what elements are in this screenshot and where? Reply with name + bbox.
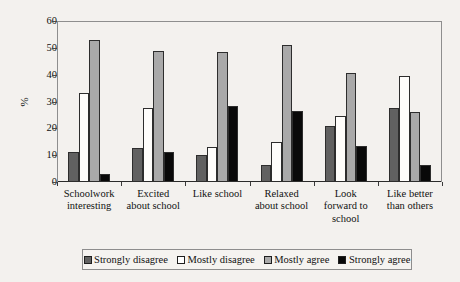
chart-legend: Strongly disagreeMostly disagreeMostly a… bbox=[82, 249, 412, 270]
bar bbox=[282, 45, 293, 182]
y-axis-ticks: 0102030405060 bbox=[0, 0, 57, 282]
legend-item[interactable]: Strongly disagree bbox=[84, 254, 168, 265]
bar bbox=[153, 51, 164, 182]
bar bbox=[68, 152, 79, 182]
y-tick-label: 50 bbox=[11, 43, 57, 53]
y-tick-label: 20 bbox=[11, 123, 57, 133]
y-tick-label: 40 bbox=[11, 70, 57, 80]
bar-group bbox=[121, 21, 185, 182]
y-tick-label: 30 bbox=[11, 97, 57, 107]
x-tick-mark bbox=[185, 182, 186, 186]
bar bbox=[356, 146, 367, 182]
bar bbox=[196, 155, 207, 182]
bar bbox=[346, 73, 357, 182]
legend-swatch-icon bbox=[177, 256, 185, 264]
legend-label: Mostly disagree bbox=[187, 254, 254, 265]
legend-swatch-icon bbox=[84, 256, 92, 264]
bar bbox=[143, 108, 154, 182]
bars-layer bbox=[57, 21, 442, 182]
bar bbox=[335, 116, 346, 182]
legend-label: Mostly agree bbox=[274, 254, 329, 265]
bar bbox=[89, 40, 100, 182]
bar bbox=[399, 76, 410, 182]
legend-label: Strongly agree bbox=[349, 254, 411, 265]
grouped-bar-chart: % 0102030405060 Strongly disagreeMostly … bbox=[0, 0, 460, 282]
legend-item[interactable]: Mostly agree bbox=[264, 254, 330, 265]
x-tick-mark bbox=[250, 182, 251, 186]
y-tick-label: 0 bbox=[11, 177, 57, 187]
bar bbox=[325, 126, 336, 182]
bar bbox=[228, 106, 239, 182]
x-tick-mark bbox=[442, 182, 443, 186]
bar bbox=[217, 52, 228, 182]
bar-group bbox=[314, 21, 378, 182]
legend-label: Strongly disagree bbox=[94, 254, 168, 265]
x-tick-mark bbox=[57, 182, 58, 186]
legend-swatch-icon bbox=[264, 256, 272, 264]
bar-group bbox=[250, 21, 314, 182]
legend-item[interactable]: Strongly agree bbox=[338, 254, 410, 265]
bar bbox=[164, 152, 175, 182]
bar bbox=[79, 93, 90, 182]
x-tick-mark bbox=[314, 182, 315, 186]
bar-group bbox=[185, 21, 249, 182]
bar bbox=[100, 174, 111, 182]
bar bbox=[132, 148, 143, 182]
bar bbox=[207, 147, 218, 182]
x-axis-category-label: Like better than others bbox=[370, 188, 450, 213]
bar-group bbox=[57, 21, 121, 182]
y-tick-label: 10 bbox=[11, 150, 57, 160]
legend-item[interactable]: Mostly disagree bbox=[177, 254, 255, 265]
bar bbox=[389, 108, 400, 182]
x-tick-mark bbox=[121, 182, 122, 186]
bar bbox=[261, 165, 272, 182]
bar bbox=[420, 165, 431, 182]
bar bbox=[410, 112, 421, 182]
x-tick-mark bbox=[378, 182, 379, 186]
legend-swatch-icon bbox=[338, 256, 346, 264]
bar bbox=[271, 142, 282, 182]
bar bbox=[292, 111, 303, 182]
y-tick-label: 60 bbox=[11, 16, 57, 26]
bar-group bbox=[378, 21, 442, 182]
